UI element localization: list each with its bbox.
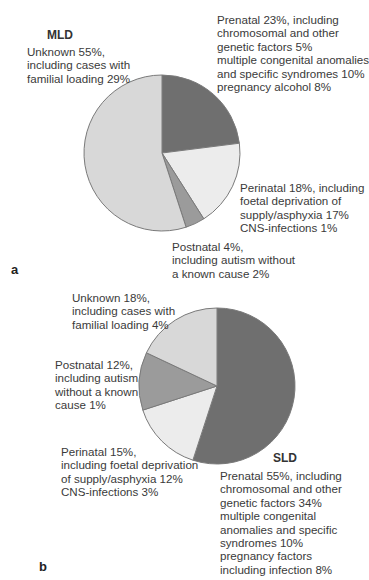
label-postnatal-mld: Postnatal 4%, including autism without a…: [172, 240, 295, 280]
label-prenatal-mld: Prenatal 23%, including chromosomal and …: [217, 13, 369, 93]
pie-chart-mld: [84, 75, 240, 231]
label-perinatal-sld: Perinatal 15%, including foetal deprivat…: [61, 445, 198, 499]
label-unknown-mld: Unknown 55%, including cases with famili…: [27, 45, 130, 85]
panel-letter-a: a: [11, 262, 18, 277]
label-unknown-sld: Unknown 18%, including cases with famili…: [72, 291, 175, 331]
pie-chart-sld: [139, 308, 295, 464]
label-perinatal-mld: Perinatal 18%, including foetal deprivat…: [240, 181, 364, 235]
chart-title-sld: SLD: [273, 451, 297, 465]
chart-title-mld: MLD: [47, 28, 73, 42]
label-postnatal-sld: Postnatal 12%, including autism without …: [55, 358, 138, 412]
label-prenatal-sld: Prenatal 55%, including chromosomal and …: [220, 469, 342, 576]
panel-letter-b: b: [39, 559, 47, 574]
